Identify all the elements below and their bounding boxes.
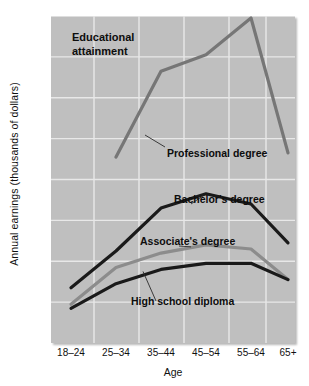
chart-title: Educational attainment [72, 30, 182, 58]
chart-figure: Annual earnings (thousands of dollars) E… [0, 0, 309, 386]
series-lines [71, 18, 288, 308]
plot-area: Educational attainment Professional degr… [51, 16, 295, 343]
series-label-professional-degree: Professional degree [167, 147, 267, 159]
x-axis-label: Age [51, 366, 295, 378]
series-label-high-school-diploma: High school diploma [131, 295, 234, 307]
series-label-associates-degree: Associate's degree [140, 235, 235, 247]
leader-line-0 [145, 135, 165, 147]
series-label-bachelors-degree: Bachelor's degree [174, 193, 265, 205]
y-axis-label: Annual earnings (thousands of dollars) [8, 74, 20, 274]
x-tick-label: 65+ [260, 347, 309, 358]
chart-svg [51, 16, 295, 343]
gridlines [51, 16, 295, 343]
